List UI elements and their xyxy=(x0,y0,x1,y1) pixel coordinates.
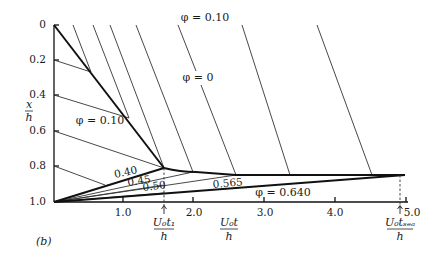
y-tick-label: 0.6 xyxy=(29,124,46,136)
phi-010-left-label: φ = 0.10 xyxy=(76,114,124,127)
y-tick-label: 0 xyxy=(39,18,46,30)
panel-label: (b) xyxy=(36,235,52,248)
x-tick-label: 1.0 xyxy=(115,206,132,218)
y-tick-label: 0.8 xyxy=(29,159,46,171)
x-tick-label: 2.0 xyxy=(186,206,203,218)
x-tick-label: 4.0 xyxy=(327,206,344,218)
tsed-label-numerator: U₀tₛₑₐ xyxy=(385,216,415,229)
shock-curve xyxy=(164,168,405,175)
t1-label: U₀t₁ h xyxy=(153,216,176,243)
y-tick-label: 0.2 xyxy=(29,53,46,65)
y-axis-label: x h xyxy=(25,98,33,124)
y-tick-label: 1.0 xyxy=(29,195,46,207)
sedimentation-characteristics-diagram: 0 0.2 0.4 0.6 0.8 1.0 x h 1.0 2.0 3.0 4.… xyxy=(0,0,434,255)
arrow-up-icon xyxy=(162,206,167,215)
tsed-label: U₀tₛₑₐ h xyxy=(385,216,415,243)
phi-050-label: 0.50 xyxy=(142,178,167,193)
t1-label-numerator: U₀t₁ xyxy=(153,216,176,229)
y-label-numerator: x xyxy=(26,98,33,111)
upper-interface xyxy=(54,25,164,168)
x-label-numerator: U₀t xyxy=(220,216,239,229)
arrow-up-icon xyxy=(398,206,403,215)
x-axis-label: U₀t h xyxy=(220,216,239,243)
phi-0-label: φ = 0 xyxy=(183,71,214,84)
region-labels: φ = 0.10 φ = 0 φ = 0.10 0.40 0.45 0.50 0… xyxy=(76,11,311,199)
phi-010-top-label: φ = 0.10 xyxy=(181,11,229,24)
tsed-label-denominator: h xyxy=(396,230,403,243)
y-label-denominator: h xyxy=(25,111,32,124)
x-tick-label: 3.0 xyxy=(257,206,274,218)
x-label-denominator: h xyxy=(225,230,232,243)
phi-0640-label: φ = 0.640 xyxy=(255,186,310,199)
t1-label-denominator: h xyxy=(160,230,167,243)
